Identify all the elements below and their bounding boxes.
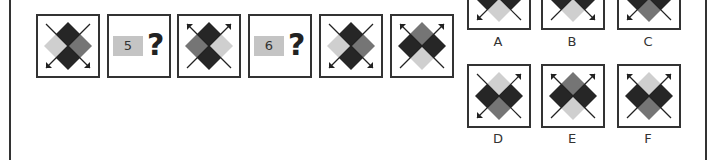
option-a[interactable] [467, 0, 531, 30]
diamond-figure-icon [392, 16, 452, 76]
option-b[interactable] [541, 0, 605, 30]
left-frame-line [9, 0, 11, 160]
hidden-number-tag: 5 [113, 36, 143, 56]
option-e-label: E [540, 131, 604, 146]
sequence-figure-1 [36, 14, 100, 78]
diamond-figure-icon [38, 16, 98, 76]
option-f[interactable] [617, 64, 681, 128]
sequence-figure-3 [177, 14, 241, 78]
option-e[interactable] [541, 64, 605, 128]
question-mark: ? [288, 26, 305, 64]
hidden-number-tag: 6 [254, 36, 284, 56]
diamond-figure-icon [619, 66, 679, 126]
diamond-figure-icon [619, 0, 679, 28]
option-a-label: A [466, 34, 530, 49]
diamond-figure-icon [321, 16, 381, 76]
option-b-label: B [540, 34, 604, 49]
diamond-figure-icon [543, 66, 603, 126]
sequence-hidden-5: 5 ? [107, 14, 171, 78]
sequence-figure-5 [319, 14, 383, 78]
diamond-figure-icon [179, 16, 239, 76]
option-d[interactable] [467, 64, 531, 128]
diamond-figure-icon [469, 0, 529, 28]
sequence-figure-6 [390, 14, 454, 78]
option-f-label: F [616, 131, 680, 146]
diamond-figure-icon [469, 66, 529, 126]
option-c[interactable] [617, 0, 681, 30]
diamond-figure-icon [543, 0, 603, 28]
right-frame-line [705, 0, 707, 160]
question-mark: ? [147, 26, 164, 64]
option-d-label: D [466, 131, 530, 146]
sequence-hidden-6: 6 ? [248, 14, 312, 78]
option-c-label: C [616, 34, 680, 49]
